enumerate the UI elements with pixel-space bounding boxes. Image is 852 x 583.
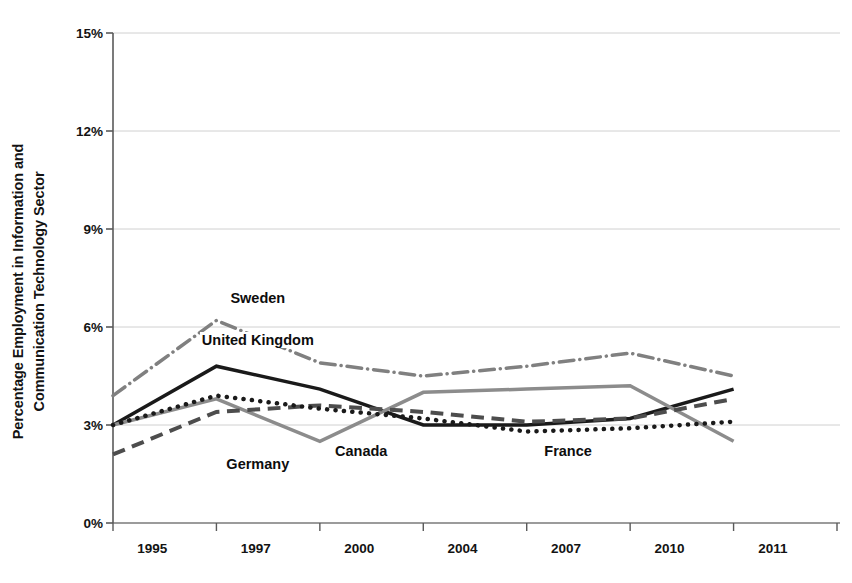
series-label-france: France <box>542 443 594 459</box>
series-label-sweden: Sweden <box>228 290 287 306</box>
x-axis-tick-label: 2007 <box>531 541 601 556</box>
y-axis-tick-label: 0% <box>59 516 103 531</box>
y-axis-tick-label: 3% <box>59 418 103 433</box>
x-axis-tick-label: 1995 <box>117 541 187 556</box>
series-label-germany: Germany <box>224 456 291 472</box>
y-axis-tick-label: 6% <box>59 320 103 335</box>
x-axis-tick-label: 1997 <box>221 541 291 556</box>
series-label-united-kingdom: United Kingdom <box>200 332 316 348</box>
chart-svg <box>0 0 852 583</box>
x-axis-tick-label: 2010 <box>634 541 704 556</box>
series-label-canada: Canada <box>333 443 389 459</box>
y-axis-tick-label: 15% <box>59 26 103 41</box>
series-line-canada <box>113 386 734 442</box>
y-axis-tick-label: 9% <box>59 222 103 237</box>
x-axis-tick-label: 2011 <box>738 541 808 556</box>
x-axis-tick-label: 2000 <box>324 541 394 556</box>
y-axis-tick-label: 12% <box>59 124 103 139</box>
x-axis-tick-label: 2004 <box>428 541 498 556</box>
chart-container: Percentage Employment in Information and… <box>0 0 852 583</box>
